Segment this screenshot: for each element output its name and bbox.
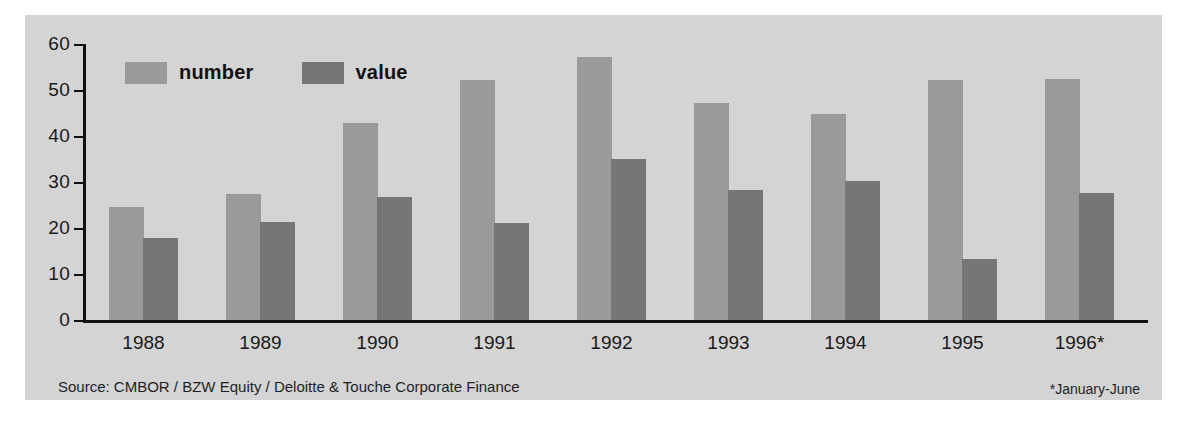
legend-label-value: value — [356, 61, 408, 84]
bar-value-1992 — [611, 159, 646, 320]
y-axis-line — [83, 44, 86, 320]
y-tick-mark — [74, 228, 83, 230]
bar-number-1994 — [811, 114, 846, 320]
bar-number-1992 — [577, 57, 612, 320]
bar-value-1990 — [377, 197, 412, 320]
legend-item-number: number — [125, 61, 254, 84]
x-label-1992: 1992 — [590, 332, 632, 354]
bar-number-1988 — [109, 207, 144, 320]
y-tick-mark — [74, 182, 83, 184]
x-label-1996: 1996* — [1055, 332, 1105, 354]
x-label-1994: 1994 — [824, 332, 866, 354]
bar-value-1996 — [1079, 193, 1114, 320]
x-label-1988: 1988 — [122, 332, 164, 354]
chart-figure: 0102030405060 19881989199019911992199319… — [0, 0, 1189, 430]
y-tick-mark — [74, 136, 83, 138]
bar-number-1993 — [694, 103, 729, 320]
bar-value-1989 — [260, 222, 295, 320]
bar-number-1996 — [1045, 79, 1080, 321]
x-axis-line — [83, 320, 1148, 323]
x-label-1993: 1993 — [707, 332, 749, 354]
y-tick-label: 30 — [48, 171, 70, 193]
plot-area: 0102030405060 19881989199019911992199319… — [83, 44, 1148, 320]
chart-panel: 0102030405060 19881989199019911992199319… — [25, 15, 1162, 400]
x-label-1995: 1995 — [941, 332, 983, 354]
bar-value-1993 — [728, 190, 763, 320]
source-note: Source: CMBOR / BZW Equity / Deloitte & … — [58, 378, 520, 395]
bar-number-1991 — [460, 80, 495, 320]
legend-item-value: value — [302, 61, 408, 84]
legend-swatch-value — [302, 62, 344, 84]
legend-swatch-number — [125, 62, 167, 84]
y-tick-mark — [74, 44, 83, 46]
bar-number-1990 — [343, 123, 378, 320]
y-tick-label: 10 — [48, 263, 70, 285]
chart-legend: numbervalue — [125, 61, 408, 84]
bar-value-1995 — [962, 259, 997, 320]
x-label-1990: 1990 — [356, 332, 398, 354]
x-label-1989: 1989 — [239, 332, 281, 354]
y-tick-label: 50 — [48, 79, 70, 101]
bar-value-1988 — [143, 238, 178, 320]
y-tick-label: 40 — [48, 125, 70, 147]
bar-number-1995 — [928, 80, 963, 320]
y-tick-mark — [74, 320, 83, 322]
bar-value-1991 — [494, 223, 529, 320]
y-tick-label: 60 — [48, 33, 70, 55]
bar-number-1989 — [226, 194, 261, 320]
footnote-january-june: *January-June — [1050, 381, 1140, 397]
legend-label-number: number — [179, 61, 254, 84]
y-tick-label: 0 — [59, 309, 70, 331]
y-tick-label: 20 — [48, 217, 70, 239]
x-label-1991: 1991 — [473, 332, 515, 354]
y-tick-mark — [74, 274, 83, 276]
bar-value-1994 — [845, 181, 880, 320]
y-tick-mark — [74, 90, 83, 92]
